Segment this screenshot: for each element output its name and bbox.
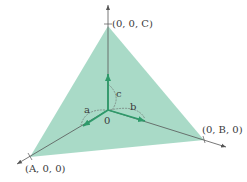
label-origin: 0 [104,115,110,126]
label-point-a: (A, 0, 0) [25,163,66,174]
label-vector-a: a [84,104,90,115]
label-vector-b: b [130,101,136,112]
diagram-canvas: (0, 0, C) (0, B, 0) (A, 0, 0) 0 c b a [0,0,247,182]
intercept-plane-diagram: (0, 0, C) (0, B, 0) (A, 0, 0) 0 c b a [0,0,247,182]
label-vector-c: c [116,88,122,99]
label-point-b: (0, B, 0) [202,124,243,135]
label-point-c: (0, 0, C) [112,18,153,29]
